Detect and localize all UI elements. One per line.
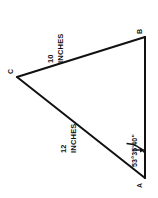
side-label-ca: 12 INCHES: [59, 123, 78, 153]
diagram-canvas: C B A 10 INCHES 12 INCHES 53°35'40": [0, 0, 158, 198]
side-label-ca-unit: INCHES: [69, 123, 78, 153]
side-label-cb-value: 10: [46, 54, 55, 63]
triangle-side-cb: [17, 37, 145, 77]
side-label-cb: 10 INCHES: [46, 33, 65, 63]
vertex-label-b: B: [136, 29, 143, 34]
side-label-cb-unit: INCHES: [56, 33, 65, 63]
triangle-side-ca: [17, 77, 145, 178]
vertex-label-c: C: [7, 69, 14, 74]
vertex-label-a: A: [136, 183, 143, 188]
angle-label-a: 53°35'40": [131, 134, 138, 167]
triangle-diagram: [0, 0, 158, 198]
side-label-ca-value: 12: [59, 144, 68, 153]
